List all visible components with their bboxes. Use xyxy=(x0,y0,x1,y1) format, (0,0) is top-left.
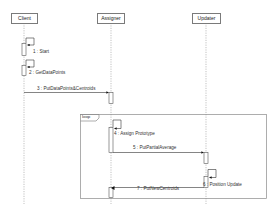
participant-client-label: Client xyxy=(18,15,31,21)
message-7-label: 7 : PutNewCentroids xyxy=(137,186,179,192)
participant-updater[interactable]: Updater xyxy=(192,13,221,24)
message-2-label: 2 : GetDataPoints xyxy=(29,70,65,76)
message-5-label: 5 : PutPartialAverage xyxy=(133,145,176,151)
message-3 xyxy=(24,93,113,104)
participant-assigner-label: Assigner xyxy=(101,15,120,21)
participant-assigner[interactable]: Assigner xyxy=(97,13,125,24)
message-5 xyxy=(113,153,208,164)
loop-fragment-label: loop xyxy=(82,114,90,120)
participant-updater-label: Updater xyxy=(198,15,216,21)
message-3-label: 3 : PutDataPoints&Centroids xyxy=(37,86,95,92)
participant-client[interactable]: Client xyxy=(11,13,38,24)
message-6-label: 6 : Position Update xyxy=(203,182,242,188)
message-4-label: 4 : Assign Prototype xyxy=(114,131,155,137)
sequence-diagram: Client Assigner Updater loop 1 : Start 2… xyxy=(0,0,276,214)
message-1-label: 1 : Start xyxy=(33,49,49,55)
